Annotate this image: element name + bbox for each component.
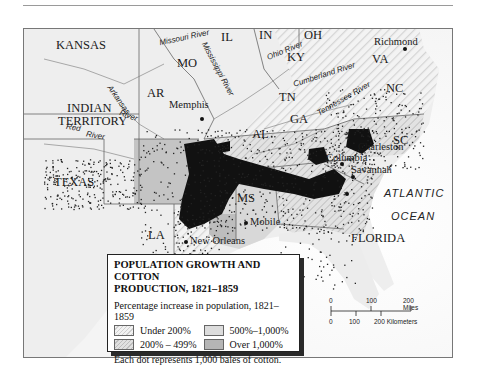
solid-dark-swatch-icon — [204, 339, 224, 350]
scale-km-200: 200 Kilometers — [374, 318, 417, 325]
label-al: AL — [252, 128, 269, 141]
city-columbia: Columbia — [326, 153, 367, 164]
legend-note: Each dot represents 1,000 bales of cotto… — [114, 354, 293, 365]
label-kansas: KANSAS — [56, 39, 106, 52]
legend-title-line2: PRODUCTION, 1821–1859 — [114, 283, 293, 295]
hatched-light-swatch-icon — [114, 325, 134, 336]
solid-light-swatch-icon — [204, 325, 224, 336]
city-charleston: Charleston — [358, 142, 404, 153]
label-indian-territory-1: INDIAN — [67, 102, 111, 115]
scale-miles-100: 100 — [366, 297, 377, 304]
label-texas: TEXAS — [54, 176, 94, 189]
city-mobile: Mobile — [250, 217, 280, 228]
label-nc: NC — [386, 82, 403, 95]
city-new-orleans: New Orleans — [190, 236, 245, 247]
legend-item-over-1000: Over 1,000% — [204, 339, 294, 350]
scale-bar: 0 100 200 Miles 0 100 200 Kilometers — [329, 291, 429, 331]
ocean-label-2: OCEAN — [391, 211, 435, 222]
city-richmond: Richmond — [374, 37, 418, 48]
legend-item-label: Over 1,000% — [230, 339, 283, 350]
label-va: VA — [372, 53, 388, 66]
scale-km-0: 0 — [329, 318, 333, 325]
scale-miles-200: 200 Miles — [403, 297, 429, 311]
label-ms: MS — [237, 192, 255, 205]
label-ar: AR — [147, 87, 164, 100]
legend-item-500-1000: 500%–1,000% — [204, 325, 294, 336]
label-la: LA — [148, 229, 165, 242]
legend-title-line1: POPULATION GROWTH AND COTTON — [114, 259, 293, 283]
legend-subtitle: Percentage increase in population, 1821–… — [114, 300, 293, 322]
label-il: IL — [221, 31, 233, 44]
city-memphis: Memphis — [169, 100, 209, 111]
legend-item-label: 200% – 499% — [140, 339, 197, 350]
label-florida: FLORIDA — [351, 232, 405, 245]
top-rule — [23, 5, 453, 6]
legend-item-under-200: Under 200% — [114, 325, 204, 336]
label-in: IN — [259, 29, 272, 42]
legend-item-label: Under 200% — [140, 325, 191, 336]
legend-item-200-499: 200% – 499% — [114, 339, 204, 350]
hatched-medium-swatch-icon — [114, 339, 134, 350]
label-ga: GA — [290, 113, 308, 126]
legend-item-label: 500%–1,000% — [230, 325, 289, 336]
label-mo: MO — [177, 57, 197, 70]
scale-miles-0: 0 — [329, 297, 333, 304]
scale-km-100: 100 — [349, 318, 360, 325]
ocean-label-1: ATLANTIC — [384, 188, 444, 199]
label-oh: OH — [304, 29, 322, 42]
city-savannah: Savannah — [351, 165, 392, 176]
label-tn: TN — [279, 91, 296, 104]
map-legend: POPULATION GROWTH AND COTTON PRODUCTION,… — [107, 254, 300, 352]
